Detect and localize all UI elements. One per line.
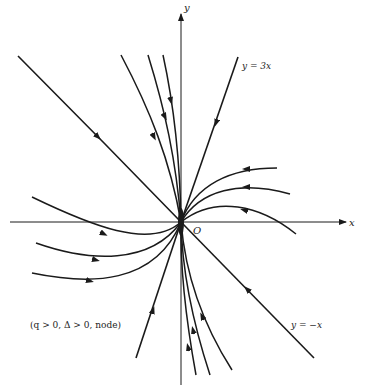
trajectory-arrows-right	[244, 169, 250, 211]
origin-convergence	[178, 208, 184, 236]
trajectories-lower	[181, 222, 232, 375]
line-3x-upper-arrow	[216, 120, 217, 123]
origin-label: O	[193, 225, 201, 236]
trajectory	[181, 188, 290, 222]
line-neg-x-lower-arrow	[247, 289, 250, 292]
y-axis-label: y	[183, 2, 190, 13]
trajectories-left	[32, 197, 181, 279]
trajectories-upper	[121, 55, 181, 222]
line-neg-x-upper-arrow	[95, 134, 98, 137]
trajectory	[32, 222, 181, 279]
trajectory	[121, 55, 181, 222]
line-3x-upper	[181, 57, 238, 222]
trajectory	[32, 197, 181, 234]
phase-portrait-figure: y x O y = 3x y = −x (q > 0, Δ > 0, node)	[0, 0, 365, 389]
line-neg-x-upper	[18, 56, 181, 222]
trajectory	[36, 222, 181, 256]
eigen-lines	[18, 56, 314, 358]
labels: y x O y = 3x y = −x (q > 0, Δ > 0, node)	[30, 2, 355, 330]
line-3x-lower-arrow	[152, 310, 153, 313]
caption: (q > 0, Δ > 0, node)	[30, 320, 121, 330]
x-axis-label: x	[349, 217, 355, 228]
line-neg-x-label: y = −x	[290, 320, 322, 330]
line-3x-label: y = 3x	[241, 61, 271, 71]
